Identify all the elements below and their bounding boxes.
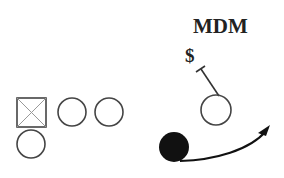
ball-carrier-filled-circle xyxy=(159,132,189,162)
dollar-marker-label: $ xyxy=(185,45,195,66)
play-diagram: MDM $ xyxy=(0,0,284,178)
mdm-label: MDM xyxy=(193,14,248,38)
